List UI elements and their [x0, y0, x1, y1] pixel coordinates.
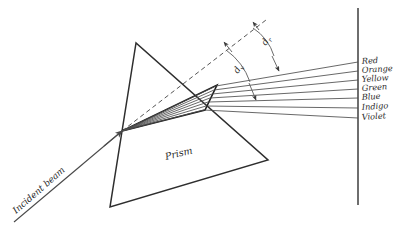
internal-ray	[122, 106, 206, 131]
emergent-ray-indigo	[206, 106, 358, 108]
internal-ray-bundle	[122, 85, 217, 131]
diagram-canvas: dr dv Prism Incident beam Red Orange Yel…	[0, 0, 401, 238]
spectrum-labels: Red Orange Yellow Green Blue Indigo Viol…	[360, 55, 393, 122]
undeviated-axis-dashed	[122, 20, 266, 131]
emergent-ray-bundle	[204, 62, 358, 118]
internal-ray	[122, 86, 216, 131]
spectrum-label-violet: Violet	[361, 110, 386, 122]
angle-leader-red-lower	[272, 56, 279, 71]
prism-dispersion-diagram: dr dv Prism Incident beam Red Orange Yel…	[0, 0, 401, 238]
emergent-ray-blue	[208, 98, 358, 102]
angle-leader-violet-lower	[249, 83, 256, 100]
emergent-ray-violet	[204, 110, 358, 118]
incident-beam-label: Incident beam	[10, 165, 67, 216]
emergent-ray-green	[210, 89, 358, 98]
angle-label-red-group: dr	[259, 33, 275, 48]
internal-ray	[122, 98, 210, 131]
angle-label-red: dr	[259, 33, 275, 48]
internal-ray	[122, 94, 212, 131]
prism-label: Prism	[163, 145, 194, 163]
internal-ray	[122, 102, 208, 131]
angle-leader-violet-upper	[224, 42, 232, 52]
angle-label-violet-group: dv	[231, 61, 247, 76]
angle-label-violet: dv	[231, 61, 247, 76]
